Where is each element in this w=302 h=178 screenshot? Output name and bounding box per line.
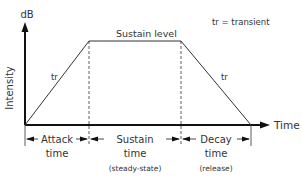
attack-label-line2: time — [46, 148, 69, 159]
sustain-note: (steady-state) — [109, 164, 162, 173]
legend-transient: tr = transient — [212, 17, 270, 27]
envelope-curve — [25, 41, 251, 125]
attack-transient-label: tr — [51, 72, 58, 82]
y-axis — [22, 22, 29, 125]
y-axis-arrow-icon — [22, 22, 29, 32]
decay-label-line2: time — [205, 148, 228, 159]
attack-label-line1: Attack — [41, 134, 73, 145]
envelope-diagram: dB Intensity Time Sustain level tr tr tr… — [0, 0, 302, 178]
x-axis-label: Time — [273, 119, 300, 131]
decay-transient-label: tr — [221, 72, 228, 82]
sustain-label-line1: Sustain — [116, 134, 153, 145]
y-axis-label: Intensity — [4, 66, 15, 110]
sustain-level-label: Sustain level — [116, 28, 177, 39]
sustain-label-line2: time — [124, 148, 147, 159]
y-axis-unit: dB — [20, 9, 33, 20]
x-axis — [25, 122, 270, 129]
x-axis-arrow-icon — [260, 122, 270, 129]
decay-label-line1: Decay — [200, 134, 231, 145]
decay-note: (release) — [199, 164, 232, 173]
